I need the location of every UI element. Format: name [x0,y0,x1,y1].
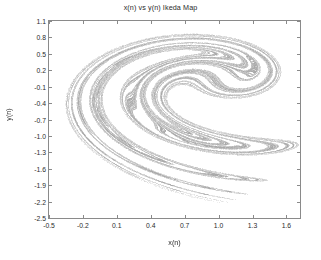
tickmark [297,54,300,55]
tickmark [49,185,52,186]
tickmark [297,87,300,88]
tickmark [117,21,118,24]
tickmark [185,215,186,218]
y-tick-label: -2.5 [6,215,46,222]
tickmark [49,21,50,24]
tickmark [286,21,287,24]
tickmark [297,103,300,104]
y-tick-label: 0.5 [6,50,46,57]
tickmark [297,185,300,186]
tickmark [297,136,300,137]
tickmark [297,152,300,153]
tickmark [297,37,300,38]
tickmark [49,87,52,88]
tickmark [49,136,52,137]
tickmark [297,218,300,219]
y-tick-label: -1.6 [6,165,46,172]
tickmark [219,215,220,218]
x-axis-label: x(n) [48,238,301,247]
tickmark [219,21,220,24]
tickmark [83,215,84,218]
y-axis-label: y(n) [4,95,13,135]
chart-title: x(n) vs y(n) Ikeda Map [0,3,321,12]
tickmark [49,103,52,104]
tickmark [49,202,52,203]
y-tick-label: -2.2 [6,198,46,205]
tickmark [151,215,152,218]
ikeda-attractor-scatter [49,21,300,218]
tickmark [286,215,287,218]
tickmark [253,21,254,24]
tickmark [49,37,52,38]
tickmark [117,215,118,218]
tickmark [185,21,186,24]
tickmark [49,54,52,55]
tickmark [49,215,50,218]
tickmark [49,218,52,219]
tickmark [297,120,300,121]
chart-figure: x(n) vs y(n) Ikeda Map 1.10.80.50.2-0.1-… [0,0,321,260]
y-tick-label: -1.3 [6,149,46,156]
tickmark [297,169,300,170]
tickmark [49,70,52,71]
tickmark [151,21,152,24]
tickmark [253,215,254,218]
tickmark [297,70,300,71]
y-tick-label: -0.1 [6,83,46,90]
tickmark [49,120,52,121]
y-tick-label: 0.8 [6,34,46,41]
tickmark [49,152,52,153]
x-tick-label: 1.6 [266,222,306,229]
y-tick-label: 1.1 [6,18,46,25]
plot-area [48,20,301,219]
tickmark [297,202,300,203]
tickmark [49,169,52,170]
tickmark [83,21,84,24]
y-tick-label: 0.2 [6,67,46,74]
y-tick-label: -1.9 [6,182,46,189]
tickmark [297,21,300,22]
